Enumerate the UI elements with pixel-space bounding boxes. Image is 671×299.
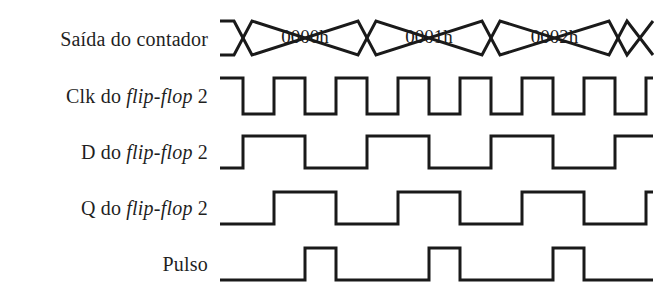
bus-value-0: 0000h [281, 26, 329, 47]
waveform-pulse [220, 248, 653, 280]
waveform-clk-ff2 [220, 78, 653, 114]
waveform-area: 0000h 0001h 0002h [0, 0, 671, 299]
bus-value-2: 0002h [531, 26, 579, 47]
bus-waveform-counter-output: 0000h 0001h 0002h [220, 21, 653, 55]
waveform-svg: 0000h 0001h 0002h [0, 0, 671, 299]
timing-diagram: Saída do contador Clk do flip-flop 2 D d… [0, 0, 671, 299]
waveform-d-ff2 [220, 136, 653, 168]
bus-value-1: 0001h [405, 26, 453, 47]
waveform-q-ff2 [220, 192, 653, 224]
